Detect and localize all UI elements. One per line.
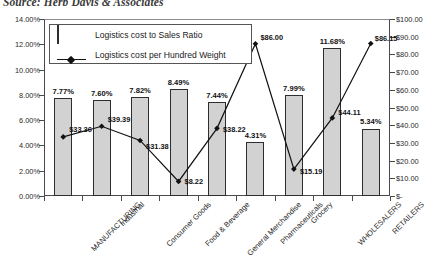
category-axis-tick-mark [313,196,314,201]
bar-value-label: 8.49% [168,78,190,87]
right-axis-tick-label: $10.00 [396,174,419,183]
line-point-label: $39.39 [108,115,131,124]
category-axis-tick-mark [275,196,276,201]
bar-value-label: 5.34% [360,117,382,126]
legend-label-bar: Logistics cost to Sales Ratio [95,30,202,40]
left-axis-tick-label: 0.00% [0,192,40,201]
right-axis-tick-label: $50.00 [396,103,419,112]
right-axis-tick-mark [390,108,395,109]
line-marker-icon [253,41,259,47]
line-point-label: $86.00 [260,33,283,42]
right-axis-tick-mark [390,125,395,126]
chart-legend: Logistics cost to Sales Ratio Logistics … [49,24,252,64]
line-point-label: $44.11 [338,108,360,117]
left-axis-tick-label: 14.00% [0,15,40,24]
left-axis-tick-label: 10.00% [0,65,40,74]
right-axis-tick-label: $70.00 [396,68,419,77]
line-point-label: $86.15 [375,34,398,43]
left-axis-tick-label: 4.00% [0,141,40,150]
right-axis-tick-label: $40.00 [396,121,419,130]
bar-value-label: 7.99% [283,84,305,93]
line-point-label: $38.22 [223,125,246,134]
right-axis-tick-mark [390,143,395,144]
bar-value-label: 7.44% [206,91,228,100]
bar-value-label: 7.82% [129,86,151,95]
right-axis-tick-label: $80.00 [396,50,419,59]
right-axis-tick-mark [390,72,395,73]
category-axis-tick-mark [236,196,237,201]
bar-value-label: 11.68% [320,37,345,46]
right-axis-tick-mark [390,90,395,91]
line-marker-icon [60,134,66,140]
right-axis-tick-label: $90.00 [396,32,419,41]
left-axis-tick-label: 8.00% [0,90,40,99]
right-axis-tick-label: $100.00 [396,15,423,24]
left-axis-tick-label: 12.00% [0,40,40,49]
right-axis-tick-mark [390,161,395,162]
source-caption: Source: Herb Davis & Associates [3,0,163,8]
line-marker-icon [99,123,105,129]
category-axis-tick-mark [352,196,353,201]
right-axis-tick-mark [390,19,395,20]
category-axis-tick-mark [44,196,45,201]
right-axis-tick-label: $30.00 [396,138,419,147]
right-axis-tick-label: $20.00 [396,156,419,165]
legend-item-line: Logistics cost per Hundred Weight [50,45,251,65]
bar-value-label: 7.60% [91,89,113,98]
legend-item-bar: Logistics cost to Sales Ratio [50,25,251,45]
line-point-label: $33.36 [69,125,92,134]
category-axis-tick-mark [159,196,160,201]
line-marker-icon [368,41,374,47]
category-axis-tick-mark [390,196,391,201]
category-axis-tick-mark [121,196,122,201]
right-axis-tick-mark [390,178,395,179]
right-axis-tick-label: $- [396,192,403,201]
left-axis-tick-label: 6.00% [0,116,40,125]
category-axis-tick-mark [198,196,199,201]
left-axis-tick-label: 2.00% [0,166,40,175]
chart-figure: Source: Herb Davis & Associates 0.00%2.0… [0,0,442,263]
bar-value-label: 4.31% [245,131,267,140]
right-axis-tick-mark [390,54,395,55]
right-axis-tick-label: $60.00 [396,85,419,94]
legend-label-line: Logistics cost per Hundred Weight [95,50,226,60]
line-point-label: $8.22 [185,177,204,186]
category-axis-tick-mark [82,196,83,201]
legend-bar-swatch-icon [57,26,59,44]
bar-value-label: 7.77% [52,87,74,96]
line-point-label: $31.38 [146,142,169,151]
line-point-label: $15.19 [300,167,323,176]
